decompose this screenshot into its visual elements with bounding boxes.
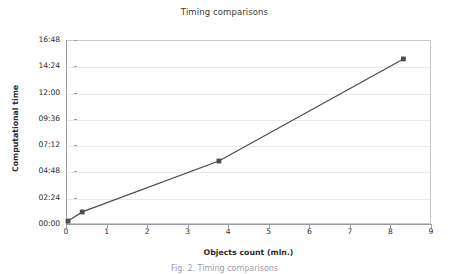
data-point-marker	[66, 219, 71, 224]
y-axis-title: Computational time	[11, 69, 20, 189]
series-line	[68, 59, 403, 221]
data-series-layer	[0, 0, 449, 274]
figure-caption: Fig. 2. Timing comparisons	[0, 264, 449, 273]
data-point-marker	[80, 210, 85, 215]
data-point-marker	[401, 57, 406, 62]
data-point-marker	[216, 159, 221, 164]
figure-container: Timing comparisons 00:0002:2404:4807:120…	[0, 0, 449, 274]
x-axis-title: Objects count (mln.)	[66, 248, 431, 257]
